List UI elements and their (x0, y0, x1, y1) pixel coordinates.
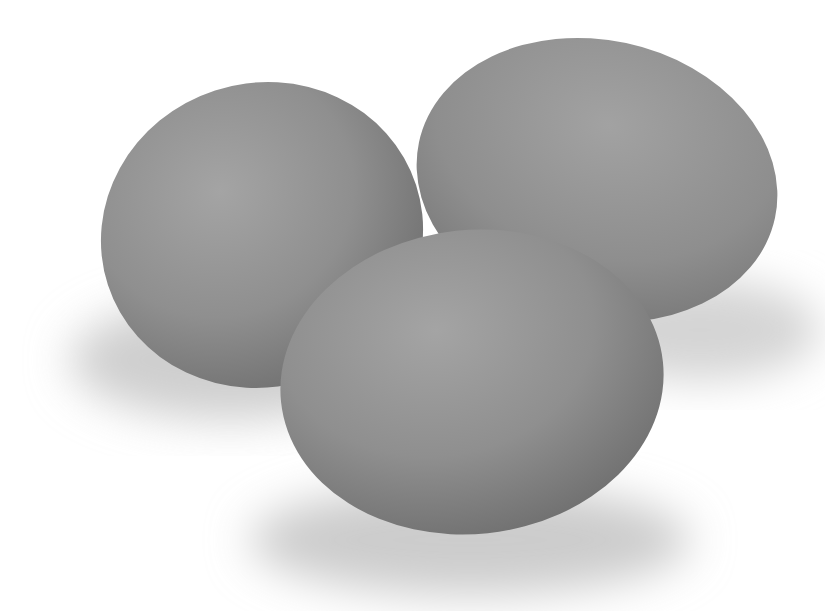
eggs-photo (0, 0, 825, 611)
